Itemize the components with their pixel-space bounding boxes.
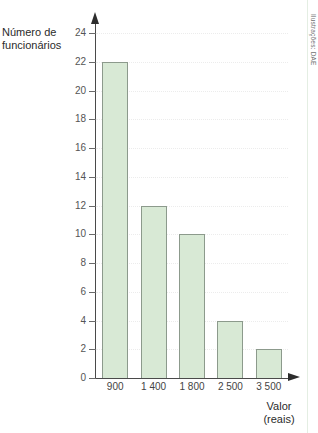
y-axis-tick	[89, 177, 96, 178]
y-axis-tick	[89, 206, 96, 207]
y-axis-tick-label: 14	[58, 172, 86, 182]
y-axis-tick-label: 22	[58, 57, 86, 67]
x-axis-title: Valor (reais)	[246, 400, 312, 426]
y-axis-tick	[89, 292, 96, 293]
y-axis-tick	[89, 263, 96, 264]
x-axis-title-line-1: Valor	[246, 400, 312, 413]
y-axis-tick-label: 4	[58, 316, 86, 326]
y-axis-tick-label: 2	[58, 344, 86, 354]
y-axis-tick-label: 10	[58, 229, 86, 239]
y-axis-tick-label: 8	[58, 258, 86, 268]
bar	[256, 349, 282, 378]
x-axis-line	[95, 378, 289, 379]
y-axis-tick	[89, 378, 96, 379]
page-edge-rule	[307, 0, 308, 433]
bar-chart: Número de funcionários 02468101214161820…	[0, 0, 318, 433]
x-axis-tick-label: 900	[93, 381, 137, 392]
y-axis-tick-label: 24	[58, 28, 86, 38]
y-axis-tick	[89, 349, 96, 350]
x-axis-tick-label: 3 500	[247, 381, 291, 392]
y-axis-tick-label: 20	[58, 86, 86, 96]
y-axis-tick	[89, 119, 96, 120]
y-axis-tick	[89, 148, 96, 149]
y-axis-tick-label: 6	[58, 287, 86, 297]
x-axis-tick-label: 1 800	[170, 381, 214, 392]
bar	[141, 206, 167, 379]
y-axis-tick	[89, 91, 96, 92]
y-axis-tick	[89, 33, 96, 34]
y-axis-tick-label: 18	[58, 114, 86, 124]
illustration-credit: Ilustrações: DAE	[310, 14, 317, 66]
y-axis-tick	[89, 62, 96, 63]
y-axis-arrow-icon	[91, 12, 99, 24]
y-axis-tick-label: 0	[58, 373, 86, 383]
y-axis-tick-label: 16	[58, 143, 86, 153]
y-axis-tick	[89, 321, 96, 322]
bar	[179, 234, 205, 378]
bar	[102, 62, 128, 378]
x-axis-tick-label: 1 400	[132, 381, 176, 392]
x-axis-tick-label: 2 500	[208, 381, 252, 392]
x-axis-arrow-icon	[288, 373, 300, 381]
bars-layer	[96, 33, 288, 378]
y-axis-tick	[89, 234, 96, 235]
y-axis-title-line-2: funcionários	[2, 39, 80, 52]
bar	[217, 321, 243, 379]
y-axis-tick-label: 12	[58, 201, 86, 211]
x-axis-title-line-2: (reais)	[246, 413, 312, 426]
